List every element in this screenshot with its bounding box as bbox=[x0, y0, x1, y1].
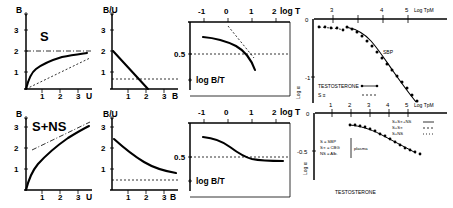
data-point bbox=[404, 147, 407, 150]
data-point bbox=[379, 133, 382, 136]
panel-g-ytick-0: 0 bbox=[305, 17, 309, 23]
panel-b-xtick-1: 1 bbox=[126, 92, 131, 101]
panel-g-xtick-5: 5 bbox=[405, 7, 409, 13]
panel-c-xlabel: log T bbox=[280, 6, 301, 16]
data-point bbox=[318, 26, 321, 29]
panel-g-ytick-m1: -1 bbox=[305, 75, 311, 81]
data-point bbox=[364, 126, 367, 129]
panel-e-curvilinear-scatchard bbox=[114, 139, 176, 173]
panel-h-plasma-testosterone: 1 2 3 4 5 Log TpM 0 -0.5 Log α S+S∝+NS S… bbox=[297, 102, 447, 195]
panel-g-series-label-sbp: SBP bbox=[383, 49, 394, 55]
panel-b-ytick-3: 3 bbox=[101, 26, 106, 35]
panel-e-xtick-1: 1 bbox=[126, 193, 131, 202]
panel-d-xtick-3: 3 bbox=[76, 193, 81, 202]
panel-g-legend-testosterone: TESTOSTERONE bbox=[318, 83, 359, 89]
data-point bbox=[374, 130, 377, 133]
panel-a-xtick-1: 1 bbox=[40, 92, 45, 101]
panel-d-xlabel: U bbox=[86, 192, 92, 202]
legend-marker bbox=[361, 85, 364, 88]
panel-f-ylabel-arrow bbox=[188, 179, 192, 183]
panel-a-ylabel: B bbox=[16, 5, 22, 15]
data-point bbox=[391, 69, 394, 72]
data-point bbox=[366, 40, 369, 43]
data-point bbox=[346, 26, 349, 29]
panel-d-xtick-1: 1 bbox=[40, 193, 45, 202]
panel-a-ytick-2: 2 bbox=[14, 47, 19, 56]
panel-c-xtick-1: 1 bbox=[249, 7, 254, 16]
figure-svg: B 3 2 1 1 2 3 U S B/U 3 2 1 1 2 3 B bbox=[0, 0, 453, 208]
panel-f-logbt-sns: -1 0 1 2 log T 0.5 log B/T bbox=[174, 107, 301, 197]
panel-c-ytick-05: 0.5 bbox=[174, 50, 186, 59]
panel-h-xtick-3: 3 bbox=[367, 102, 371, 108]
panel-h-xtick-2: 2 bbox=[348, 102, 352, 108]
panel-g-legend-s: S ≡ bbox=[318, 92, 326, 98]
panel-g-xlabel: Log TpM bbox=[414, 7, 434, 13]
panel-h-xtick-1: 1 bbox=[329, 102, 333, 108]
panel-a-xtick-3: 3 bbox=[76, 92, 81, 101]
panel-e-ytick-3: 3 bbox=[101, 123, 106, 132]
panel-a-ns-line bbox=[26, 58, 90, 89]
data-point bbox=[394, 141, 397, 144]
panel-c-logbt-s: -1 0 1 2 log T 0.5 log B/T bbox=[174, 6, 301, 90]
data-point bbox=[356, 31, 359, 34]
legend-marker bbox=[376, 85, 379, 88]
panel-e-ylabel: B/U bbox=[103, 109, 118, 119]
panel-h-plasma-note: plasma bbox=[354, 146, 368, 151]
panel-h-xlabel: Log TpM bbox=[414, 102, 434, 108]
panel-g-xtick-4: 4 bbox=[380, 7, 384, 13]
panel-c-ylabel-arrow bbox=[188, 78, 192, 82]
figure-container: B 3 2 1 1 2 3 U S B/U 3 2 1 1 2 3 B bbox=[0, 0, 453, 208]
data-point bbox=[399, 144, 402, 147]
data-point bbox=[371, 45, 374, 48]
panel-h-def-3: NS = Alb. bbox=[320, 151, 338, 156]
panel-d-ytick-3: 3 bbox=[14, 123, 19, 132]
panel-f-ytick-05: 0.5 bbox=[174, 153, 186, 162]
panel-h-legend-1: S+S∝+NS bbox=[392, 119, 412, 124]
panel-c-xtick-0: 0 bbox=[224, 7, 229, 16]
data-point bbox=[359, 125, 362, 128]
data-point bbox=[401, 81, 404, 84]
panel-c-logbt-curve bbox=[203, 37, 255, 70]
panel-h-ylabel: Log α bbox=[302, 162, 308, 175]
panel-b-xtick-3: 3 bbox=[162, 92, 167, 101]
data-point bbox=[409, 149, 412, 152]
panel-h-title: TESTOSTERONE bbox=[335, 189, 376, 195]
data-point bbox=[381, 57, 384, 60]
panel-a-ytick-1: 1 bbox=[14, 68, 19, 77]
panel-h-legend-3: S+NS bbox=[392, 131, 403, 136]
panel-d-yaxis-arrow bbox=[24, 116, 28, 120]
panel-a-xlabel: U bbox=[86, 91, 92, 101]
panel-c-xtick-2: 2 bbox=[272, 7, 277, 16]
data-point bbox=[351, 28, 354, 31]
data-point bbox=[384, 135, 387, 138]
data-point bbox=[369, 128, 372, 131]
panel-d-title: S+NS bbox=[32, 119, 67, 134]
data-point bbox=[349, 124, 352, 127]
panel-g-xtick-3: 3 bbox=[330, 7, 334, 13]
panel-h-ytick-m05: -0.5 bbox=[297, 149, 308, 155]
data-point bbox=[354, 124, 357, 127]
panel-d-saturation-sns: B 3 2 1 1 2 3 U S+NS bbox=[14, 109, 92, 202]
panel-f-ylabel: log B/T bbox=[196, 176, 226, 186]
panel-e-ytick-2: 2 bbox=[101, 144, 106, 153]
panel-a-title: S bbox=[40, 29, 49, 44]
panel-d-ytick-1: 1 bbox=[14, 165, 19, 174]
panel-d-ytick-2: 2 bbox=[14, 144, 19, 153]
panel-a-ytick-3: 3 bbox=[14, 26, 19, 35]
data-point bbox=[336, 27, 339, 30]
panel-h-def-1: S = SBP bbox=[320, 139, 336, 144]
panel-c-xtick-m1: -1 bbox=[198, 7, 206, 16]
data-point bbox=[389, 138, 392, 141]
panel-e-xtick-2: 2 bbox=[144, 193, 149, 202]
panel-h-ytick-0: 0 bbox=[306, 111, 310, 117]
panel-c-tangent bbox=[228, 26, 254, 58]
data-point bbox=[396, 75, 399, 78]
panel-b-ytick-1: 1 bbox=[101, 68, 106, 77]
panel-a-saturation-s: B 3 2 1 1 2 3 U S bbox=[14, 5, 92, 101]
data-point bbox=[342, 29, 345, 32]
panel-h-legend-2: S+S∝ bbox=[392, 125, 403, 130]
panel-b-xlabel: B bbox=[172, 91, 178, 101]
panel-f-xtick-0: 0 bbox=[224, 108, 229, 117]
panel-g-sbp-curve bbox=[346, 27, 416, 102]
panel-a-xtick-2: 2 bbox=[58, 92, 63, 101]
